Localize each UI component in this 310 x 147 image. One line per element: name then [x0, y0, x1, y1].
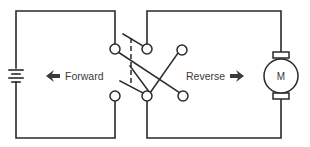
reverse-indicator: Reverse [186, 70, 244, 82]
terminal-top-right [177, 45, 187, 55]
terminal-top-middle [142, 44, 152, 54]
arrow-right-icon [230, 70, 244, 82]
battery-icon [9, 70, 23, 82]
motor-label: M [277, 71, 285, 82]
circuit-svg: Forward Reverse M [0, 0, 310, 147]
arrow-left-icon [46, 70, 60, 82]
forward-label: Forward [65, 70, 104, 82]
forward-indicator: Forward [46, 70, 104, 82]
reverse-label: Reverse [186, 70, 225, 82]
terminal-bottom-left [110, 91, 120, 101]
terminal-bottom-middle [142, 91, 152, 101]
terminal-bottom-right [178, 91, 188, 101]
terminal-top-left [110, 44, 120, 54]
switch-cross-wires [118, 52, 180, 93]
reversing-circuit-diagram: Forward Reverse M [0, 0, 310, 147]
motor-icon: M [264, 52, 298, 99]
